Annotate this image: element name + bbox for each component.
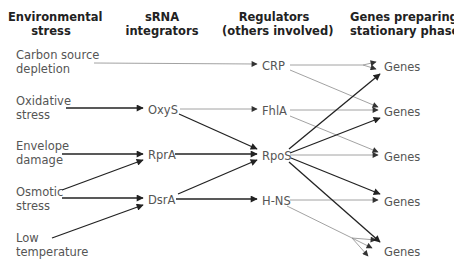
arrow-lowtemp-to-dsra — [52, 205, 143, 238]
arrow-dsra-to-rpos — [178, 160, 257, 194]
arrow-oxys-to-rpos — [179, 114, 257, 149]
arrow-crp-to-genes2 — [290, 70, 378, 107]
arrow-layer — [0, 0, 454, 271]
arrow-rpos-to-genes5 — [289, 162, 380, 242]
arrow-fhla-to-genes3 — [290, 116, 378, 152]
hns-fan-3 — [352, 238, 368, 256]
arrows-thin — [94, 62, 378, 256]
crp-fan-lower — [363, 65, 376, 69]
crp-fan-upper — [363, 62, 376, 65]
arrow-rpos-to-genes2 — [290, 118, 380, 153]
arrow-rpos-to-genes1 — [289, 74, 380, 149]
arrow-hns-to-genes5 — [287, 206, 352, 238]
arrow-osmotic-to-rpra — [62, 160, 143, 190]
arrow-carbon-to-crp — [94, 63, 257, 64]
arrows-thick — [52, 74, 380, 242]
